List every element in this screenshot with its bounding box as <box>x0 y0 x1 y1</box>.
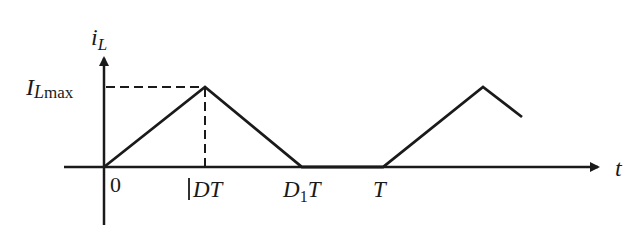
y-axis-label: iL <box>91 24 107 54</box>
inductor-current-waveform: iL t ILmax 0 DT D1T T <box>0 0 642 235</box>
dt-label: DT <box>192 177 225 202</box>
current-waveform <box>104 87 522 167</box>
d1t-label: D1T <box>282 177 323 205</box>
origin-label: 0 <box>110 172 121 197</box>
peak-label: ILmax <box>25 74 74 102</box>
x-axis-label: t <box>615 155 623 181</box>
t-label: T <box>373 177 388 202</box>
